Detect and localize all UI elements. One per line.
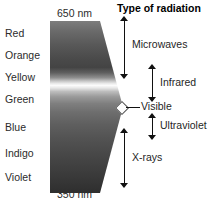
arrow-shaft xyxy=(152,68,153,98)
page-title: Type of radiation xyxy=(117,3,201,14)
color-label-green: Green xyxy=(5,94,34,105)
radiation-label-microwaves: Microwaves xyxy=(132,39,187,50)
visible-leader-line xyxy=(126,107,140,108)
arrow-shaft xyxy=(124,20,125,75)
color-label-yellow: Yellow xyxy=(5,72,35,83)
ultraviolet-range-arrow xyxy=(148,113,157,140)
arrowhead-down-icon xyxy=(148,135,156,140)
arrow-shaft xyxy=(152,117,153,136)
color-label-blue: Blue xyxy=(5,122,26,133)
radiation-label-visible: Visible xyxy=(141,101,172,112)
wavelength-label-top: 650 nm xyxy=(57,8,92,19)
infrared-range-arrow xyxy=(148,64,157,102)
arrow-shaft xyxy=(124,132,125,184)
arrowhead-down-icon xyxy=(120,183,128,188)
color-label-violet: Violet xyxy=(5,172,31,183)
radiation-label-infrared: Infrared xyxy=(160,77,196,88)
radiation-label-xrays: X-rays xyxy=(132,152,162,163)
color-label-red: Red xyxy=(5,28,24,39)
spectrum-diagram: Type of radiation Red Orange Yellow Gree… xyxy=(0,0,222,206)
color-label-orange: Orange xyxy=(5,50,40,61)
radiation-label-ultraviolet: Ultraviolet xyxy=(160,120,207,131)
spectrum-gradient xyxy=(50,21,123,193)
microwaves-range-arrow xyxy=(120,16,129,79)
arrowhead-down-icon xyxy=(120,74,128,79)
spectrum-prism xyxy=(50,21,123,193)
color-label-indigo: Indigo xyxy=(5,148,34,159)
xrays-range-arrow xyxy=(120,128,129,188)
